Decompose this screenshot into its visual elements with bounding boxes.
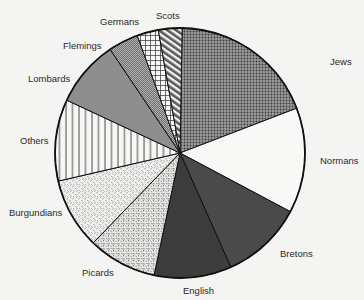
- label-jews: Jews: [330, 56, 352, 67]
- label-bretons: Bretons: [280, 248, 313, 259]
- label-others: Others: [20, 135, 49, 146]
- label-burgundians: Burgundians: [9, 207, 62, 218]
- label-scots: Scots: [156, 10, 180, 21]
- label-flemings: Flemings: [63, 40, 102, 51]
- label-normans: Normans: [320, 155, 359, 166]
- label-germans: Germans: [100, 16, 139, 27]
- label-lombards: Lombards: [28, 73, 70, 84]
- label-picards: Picards: [82, 267, 114, 278]
- label-english: English: [183, 285, 214, 296]
